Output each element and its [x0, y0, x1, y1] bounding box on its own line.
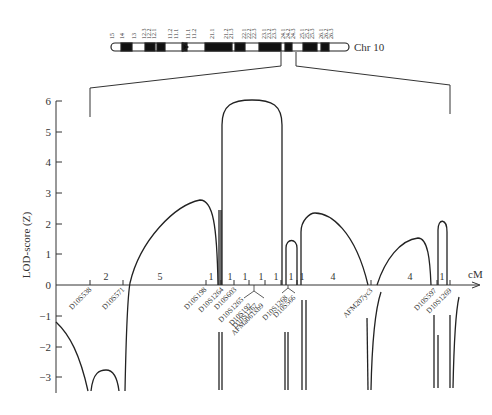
svg-text:2: 2: [46, 218, 52, 230]
svg-text:11.1: 11.1: [173, 29, 179, 39]
interval-labels: 2 5 1 1 1 1 1 1 1 4 4 1: [104, 271, 445, 282]
svg-text:21.1: 21.1: [209, 29, 215, 40]
svg-text:1: 1: [46, 248, 52, 260]
chromosome-ideogram: [111, 43, 349, 51]
svg-text:4: 4: [46, 156, 52, 168]
svg-text:1: 1: [300, 271, 305, 282]
y-axis: [56, 101, 62, 393]
svg-text:D10S571: D10S571: [100, 285, 127, 312]
svg-text:21.3: 21.3: [228, 29, 234, 40]
svg-text:1: 1: [259, 271, 264, 282]
svg-text:1: 1: [440, 271, 445, 282]
marker-labels: D10S538 D10S571 D10S198 D10S1264 D10S603…: [67, 285, 454, 337]
svg-text:AFM207yc3: AFM207yc3: [341, 286, 375, 320]
svg-text:0: 0: [46, 279, 52, 291]
svg-text:5: 5: [158, 271, 163, 282]
svg-text:12.1: 12.1: [151, 29, 157, 40]
band-labels: 15 14 13 12.3 12.2 12.1 11.2 11.1 11.1 1…: [109, 29, 334, 40]
chromosome-label: Chr 10: [354, 41, 385, 53]
svg-text:14: 14: [119, 33, 125, 39]
svg-text:6: 6: [46, 95, 52, 107]
svg-text:1: 1: [243, 271, 248, 282]
svg-text:24.3: 24.3: [290, 29, 296, 40]
svg-text:23.3: 23.3: [271, 29, 277, 40]
svg-text:5: 5: [46, 126, 52, 138]
svg-text:4: 4: [331, 271, 336, 282]
svg-text:1: 1: [274, 271, 279, 282]
svg-text:3: 3: [46, 187, 52, 199]
svg-text:15: 15: [109, 33, 115, 39]
svg-text:−1: −1: [39, 310, 51, 322]
svg-text:4: 4: [408, 271, 413, 282]
svg-text:1: 1: [209, 271, 214, 282]
svg-text:1: 1: [289, 271, 294, 282]
svg-text:D10S538: D10S538: [67, 285, 94, 312]
svg-text:2: 2: [104, 271, 109, 282]
lod-score-chart: Chr 10 15 14 13 12.3 12.2 12.1 11.2 11.1…: [0, 0, 492, 415]
svg-text:26.3: 26.3: [328, 29, 334, 40]
y-axis-label: LOD-score (Z): [20, 212, 33, 279]
svg-text:11.2: 11.2: [191, 29, 197, 39]
svg-text:22.3: 22.3: [251, 29, 257, 40]
svg-text:25.3: 25.3: [309, 29, 315, 40]
y-tick-labels: 6 5 4 3 2 1 0 −1 −2 −3: [39, 95, 51, 383]
svg-text:1: 1: [228, 271, 233, 282]
lod-curves: [56, 100, 459, 391]
zoom-bracket: [90, 52, 450, 117]
svg-text:−2: −2: [39, 341, 51, 353]
svg-text:−3: −3: [39, 371, 51, 383]
x-axis-label: cM: [468, 268, 483, 280]
svg-text:13: 13: [131, 33, 137, 39]
